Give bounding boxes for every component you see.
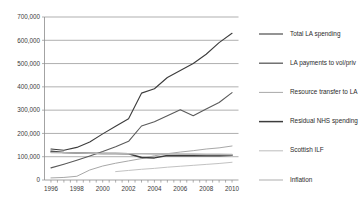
legend-item[interactable]: Resource transfer to LA — [259, 88, 358, 95]
x-tick-label: 2006 — [173, 185, 188, 192]
y-axis-tick-labels: 0100,000200,000300,000400,000500,000600,… — [17, 13, 40, 183]
series-line-total-la-spending — [51, 33, 232, 150]
legend-item-label: Total LA spending — [290, 30, 341, 38]
series-line-resource-transfer-to-la — [51, 146, 232, 178]
x-tick-label: 2000 — [96, 185, 111, 192]
x-tick-label: 1996 — [44, 185, 59, 192]
y-tick-label: 700,000 — [17, 13, 40, 20]
line-chart: 0100,000200,000300,000400,000500,000600,… — [0, 0, 362, 210]
x-tick-label: 2004 — [147, 185, 162, 192]
x-tick-label: 1998 — [70, 185, 85, 192]
gridlines — [45, 17, 239, 157]
legend-item[interactable]: Inflation — [259, 176, 313, 183]
y-tick-label: 600,000 — [17, 37, 40, 44]
y-tick-label: 500,000 — [17, 60, 40, 67]
legend-item[interactable]: Residual NHS spending — [259, 117, 358, 125]
legend-item-label: LA payments to vol/priv — [290, 59, 357, 67]
x-tick-label: 2002 — [122, 185, 137, 192]
y-tick-label: 100,000 — [17, 153, 40, 160]
chart-legend: Total LA spendingLA payments to vol/priv… — [259, 30, 358, 183]
series-line-scottish-ilf — [116, 162, 232, 171]
y-tick-label: 0 — [36, 176, 40, 183]
y-tick-label: 400,000 — [17, 83, 40, 90]
series-line-inflation — [51, 153, 232, 155]
x-tick-label: 2010 — [225, 185, 240, 192]
legend-item[interactable]: Total LA spending — [259, 30, 341, 38]
data-series-layer — [51, 33, 232, 178]
x-tick-label: 2008 — [199, 185, 214, 192]
chart-screenshot: 0100,000200,000300,000400,000500,000600,… — [0, 0, 362, 210]
legend-item[interactable]: LA payments to vol/priv — [259, 59, 357, 67]
y-tick-label: 300,000 — [17, 106, 40, 113]
legend-item-label: Inflation — [290, 176, 313, 183]
legend-item[interactable]: Scottish ILF — [259, 146, 324, 153]
x-axis-tick-labels: 19961998200020022004200620082010 — [44, 185, 240, 192]
legend-item-label: Scottish ILF — [290, 146, 324, 153]
legend-item-label: Residual NHS spending — [290, 117, 358, 125]
legend-item-label: Resource transfer to LA — [290, 88, 358, 95]
y-tick-label: 200,000 — [17, 130, 40, 137]
